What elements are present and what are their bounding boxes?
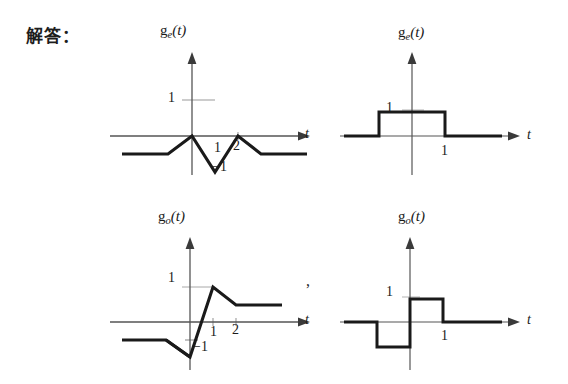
x-axis-arrowhead (508, 318, 520, 327)
y-axis-arrowhead (188, 52, 197, 64)
fn-name: g (398, 208, 406, 224)
xtick-label-2-even-triangular: 2 (233, 138, 240, 154)
plot-svg-odd-rect (340, 235, 540, 370)
panel-title-even-rect: ge(t) (398, 24, 424, 42)
fn-name: g (158, 208, 166, 224)
ytick-label-1-even-rect: 1 (386, 100, 393, 116)
x-axis-label-even-triangular: t (305, 126, 309, 142)
panel-title-odd-rect: go(t) (398, 208, 425, 226)
fn-argument: (t) (411, 208, 425, 224)
xtick-label-2-odd-triangular: 2 (232, 322, 239, 338)
curve-even-part-rect (344, 112, 502, 136)
xtick-label-1-even-rect: 1 (441, 143, 448, 159)
fn-argument: (t) (410, 24, 424, 40)
fn-name: g (160, 22, 168, 38)
panel-title-odd-triangular: go(t) (158, 208, 185, 226)
ytick-label-1-odd-triangular: 1 (168, 270, 175, 286)
curve-odd-part-rect (344, 299, 502, 347)
panel-title-even-triangular: ge(t) (160, 22, 186, 40)
y-axis-arrowhead (186, 237, 195, 249)
plot-even-part-rect (340, 50, 540, 175)
x-axis-label-odd-rect: t (527, 312, 531, 328)
ytick-label-1-even-triangular: 1 (168, 90, 175, 106)
x-axis-arrowhead (508, 132, 520, 141)
xtick-label-1-odd-rect: 1 (441, 328, 448, 344)
curve-odd-segment-left (166, 340, 190, 357)
fn-argument: (t) (171, 208, 185, 224)
xtick-label-1-even-triangular: 1 (214, 140, 221, 156)
column-separator-comma: , (306, 272, 310, 290)
plot-even-part-triangular (110, 50, 320, 175)
answer-prompt-label: 解答： (26, 22, 80, 47)
ytick-label-1-odd-rect: 1 (386, 284, 393, 300)
fn-argument: (t) (172, 22, 186, 38)
xtick-label-1-odd-triangular: 1 (210, 324, 217, 340)
ytick-label-minus1-even-triangular: −1 (212, 159, 227, 175)
y-axis-arrowhead (408, 52, 417, 64)
x-axis-label-odd-triangular: t (305, 312, 309, 328)
plot-odd-part-triangular (110, 235, 320, 370)
plot-svg-odd-triangular (110, 235, 320, 370)
x-axis-label-even-rect: t (527, 127, 531, 143)
plot-svg-even-rect (340, 50, 540, 175)
plot-svg-even-triangular (110, 50, 320, 175)
figure-canvas: 解答： ge(t) 1 1 2 −1 t ge(t) (0, 0, 568, 384)
plot-odd-part-rect (340, 235, 540, 370)
ytick-label-minus1-odd-triangular: −1 (193, 339, 208, 355)
fn-name: g (398, 24, 406, 40)
y-axis-arrowhead (406, 237, 415, 249)
